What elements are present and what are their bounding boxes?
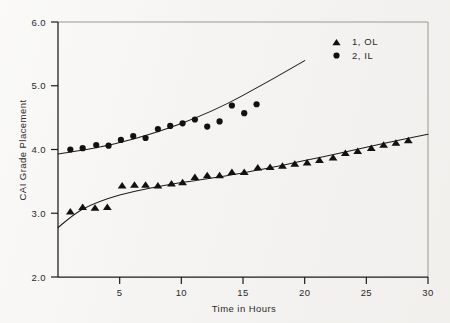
- data-point: [93, 142, 99, 148]
- y-tick-label-3: 3.0: [32, 208, 46, 219]
- data-point: [141, 181, 150, 188]
- series-il-markers: [67, 101, 259, 152]
- data-point: [241, 110, 247, 116]
- y-axis-ticks: [51, 22, 58, 277]
- data-point: [103, 204, 112, 211]
- data-point: [179, 120, 185, 126]
- data-point: [130, 181, 139, 188]
- data-point: [142, 135, 148, 141]
- data-point: [91, 204, 100, 211]
- chart-screenshot: 6.0 5.0 4.0 3.0 2.0 5 10 15 20 25 30 Tim…: [0, 0, 450, 323]
- legend-triangle-icon: [332, 39, 340, 45]
- y-tick-label-5: 5.0: [32, 80, 46, 91]
- legend-label-ol: 1, OL: [352, 36, 378, 47]
- y-tick-label-2: 2.0: [32, 272, 46, 283]
- data-point: [216, 118, 222, 124]
- data-point: [155, 126, 161, 132]
- data-point: [105, 143, 111, 149]
- legend-circle-icon: [333, 52, 339, 58]
- x-tick-label-15: 15: [237, 287, 248, 298]
- x-tick-label-5: 5: [117, 287, 123, 298]
- data-point: [118, 182, 127, 189]
- x-tick-label-25: 25: [361, 287, 372, 298]
- y-tick-labels: 6.0 5.0 4.0 3.0 2.0: [32, 17, 46, 283]
- y-axis-title: CAI Grade Placement: [17, 100, 28, 201]
- legend-label-il: 2, IL: [352, 50, 373, 61]
- x-tick-label-20: 20: [299, 287, 310, 298]
- data-point: [154, 182, 163, 189]
- y-tick-label-6: 6.0: [32, 17, 46, 28]
- data-point: [118, 137, 124, 143]
- x-tick-label-30: 30: [422, 287, 433, 298]
- data-point: [229, 102, 235, 108]
- data-point: [253, 101, 259, 107]
- x-tick-label-10: 10: [176, 287, 187, 298]
- x-axis-title: Time in Hours: [212, 303, 277, 314]
- data-point: [80, 145, 86, 151]
- data-point: [215, 172, 224, 179]
- chart-legend: 1, OL 2, IL: [332, 36, 378, 61]
- data-point: [167, 123, 173, 129]
- data-point: [78, 204, 87, 211]
- data-point: [191, 174, 200, 181]
- x-axis-ticks: [120, 277, 428, 284]
- data-point: [228, 169, 237, 176]
- scatter-plot-figure: 6.0 5.0 4.0 3.0 2.0 5 10 15 20 25 30 Tim…: [0, 0, 450, 323]
- data-point: [67, 146, 73, 152]
- data-point: [204, 123, 210, 129]
- data-point: [130, 133, 136, 139]
- data-point: [66, 208, 75, 215]
- data-point: [253, 164, 262, 171]
- fit-curve-il: [58, 61, 305, 154]
- data-point: [192, 116, 198, 122]
- x-tick-labels: 5 10 15 20 25 30: [117, 287, 434, 298]
- data-point: [203, 172, 212, 179]
- y-tick-label-4: 4.0: [32, 144, 46, 155]
